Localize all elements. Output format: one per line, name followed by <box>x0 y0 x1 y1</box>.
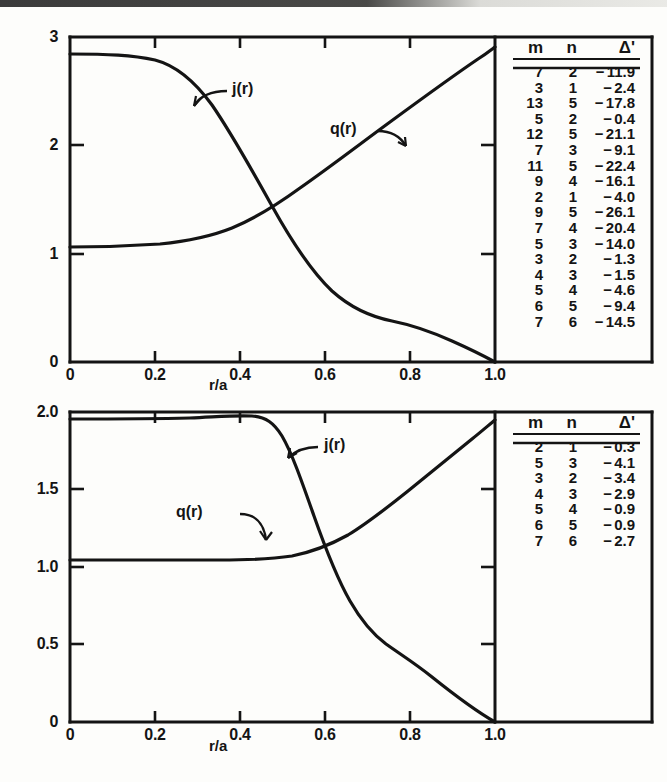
th-n: n <box>543 415 577 432</box>
curve-label-q-bottom: q(r) <box>176 503 203 521</box>
cell-delta-prime: −26.1 <box>577 204 635 220</box>
cell-delta-prime: −1.5 <box>577 267 635 283</box>
table-row: 65−9.4 <box>513 298 635 314</box>
cell-n: 2 <box>543 470 577 486</box>
cell-delta-prime: −21.1 <box>577 126 635 142</box>
cell-m: 2 <box>513 189 543 205</box>
figure-panel-bottom: 2.0 1.5 1.0 0.5 0 0 0.2 0.4 0.6 0.8 1.0 … <box>0 392 667 782</box>
table-row: 54−0.9 <box>513 501 635 517</box>
delta-prime-table-top: m n Δ' 72−11.931−2.4135−17.852−0.4125−21… <box>513 40 640 329</box>
cell-m: 3 <box>513 470 543 486</box>
table-rule <box>513 58 640 61</box>
cell-m: 7 <box>513 64 543 80</box>
table-header-row: m n Δ' <box>513 40 635 57</box>
ytick-bottom-4: 2.0 <box>10 403 58 421</box>
cell-delta-prime: −17.8 <box>577 95 635 111</box>
cell-m: 5 <box>513 236 543 252</box>
cell-delta-prime: −0.3 <box>577 439 635 455</box>
ytick-bottom-2: 1.0 <box>10 558 58 576</box>
cell-n: 1 <box>543 80 577 96</box>
cell-delta-prime: −14.5 <box>577 314 635 330</box>
cell-n: 3 <box>543 486 577 502</box>
cell-m: 13 <box>513 95 543 111</box>
cell-delta-prime: −3.4 <box>577 470 635 486</box>
ytick-top-2: 2 <box>30 136 58 154</box>
xtick-top-1: 0.2 <box>134 366 176 384</box>
cell-delta-prime: −16.1 <box>577 173 635 189</box>
table-row: 54−4.6 <box>513 282 635 298</box>
table-row: 94−16.1 <box>513 173 635 189</box>
table-row: 53−4.1 <box>513 455 635 471</box>
cell-m: 7 <box>513 142 543 158</box>
xaxis-label-top: r/a <box>209 376 227 393</box>
xtick-top-5: 1.0 <box>474 366 516 384</box>
table-row: 72−11.9 <box>513 64 635 80</box>
cell-n: 3 <box>543 142 577 158</box>
cell-n: 3 <box>543 236 577 252</box>
cell-n: 1 <box>543 439 577 455</box>
cell-n: 2 <box>543 64 577 80</box>
table-row: 31−2.4 <box>513 80 635 96</box>
leader-q-top <box>378 131 406 146</box>
curve-label-q-top: q(r) <box>330 120 357 138</box>
th-delta-prime: Δ' <box>577 40 635 57</box>
table-top-body: 72−11.931−2.4135−17.852−0.4125−21.173−9.… <box>513 64 635 329</box>
table-rule <box>513 433 640 436</box>
curve-label-j-bottom: j(r) <box>324 436 345 454</box>
leader-j-bottom <box>288 447 318 458</box>
ytick-bottom-0: 0 <box>10 713 58 731</box>
cell-n: 2 <box>543 111 577 127</box>
cell-n: 4 <box>543 220 577 236</box>
cell-n: 1 <box>543 189 577 205</box>
cell-delta-prime: −11.9 <box>577 64 635 80</box>
cell-n: 5 <box>543 298 577 314</box>
table-bottom-body: 21−0.353−4.132−3.443−2.954−0.965−0.976−2… <box>513 439 635 548</box>
cell-m: 7 <box>513 314 543 330</box>
cell-delta-prime: −22.4 <box>577 158 635 174</box>
curve-q-top <box>70 47 495 247</box>
cell-delta-prime: −4.1 <box>577 455 635 471</box>
cell-delta-prime: −2.9 <box>577 486 635 502</box>
cell-m: 5 <box>513 455 543 471</box>
cell-delta-prime: −2.4 <box>577 80 635 96</box>
cell-n: 3 <box>543 455 577 471</box>
cell-delta-prime: −1.3 <box>577 251 635 267</box>
cell-delta-prime: −20.4 <box>577 220 635 236</box>
cell-n: 5 <box>543 517 577 533</box>
cell-m: 7 <box>513 533 543 549</box>
ytick-top-1: 1 <box>30 245 58 263</box>
table-row: 53−14.0 <box>513 236 635 252</box>
delta-prime-table-bottom: m n Δ' 21−0.353−4.132−3.443−2.954−0.965−… <box>513 415 640 548</box>
cell-m: 6 <box>513 517 543 533</box>
ytick-bottom-3: 1.5 <box>10 480 58 498</box>
th-m: m <box>513 415 543 432</box>
table-row: 135−17.8 <box>513 95 635 111</box>
xtick-bottom-0: 0 <box>52 726 88 744</box>
table-row: 95−26.1 <box>513 204 635 220</box>
cell-n: 6 <box>543 314 577 330</box>
table-row: 52−0.4 <box>513 111 635 127</box>
cell-m: 11 <box>513 158 543 174</box>
table-row: 73−9.1 <box>513 142 635 158</box>
cell-m: 12 <box>513 126 543 142</box>
cell-n: 5 <box>543 126 577 142</box>
xtick-bottom-4: 0.8 <box>389 726 431 744</box>
cell-n: 3 <box>543 267 577 283</box>
table-row: 21−4.0 <box>513 189 635 205</box>
cell-delta-prime: −0.4 <box>577 111 635 127</box>
th-delta-prime: Δ' <box>577 415 635 432</box>
curve-j-bottom <box>70 416 495 722</box>
xtick-bottom-1: 0.2 <box>134 726 176 744</box>
cell-delta-prime: −9.1 <box>577 142 635 158</box>
figure-panel-top: 3 2 1 0 0 0.2 0.4 0.6 0.8 1.0 r/a j(r) q… <box>0 10 667 390</box>
ytick-bottom-1: 0.5 <box>10 635 58 653</box>
table-row: 125−21.1 <box>513 126 635 142</box>
table-row: 43−1.5 <box>513 267 635 283</box>
table-row: 74−20.4 <box>513 220 635 236</box>
table-row: 32−1.3 <box>513 251 635 267</box>
cell-m: 7 <box>513 220 543 236</box>
cell-m: 2 <box>513 439 543 455</box>
cell-delta-prime: −14.0 <box>577 236 635 252</box>
table-row: 65−0.9 <box>513 517 635 533</box>
th-n: n <box>543 40 577 57</box>
